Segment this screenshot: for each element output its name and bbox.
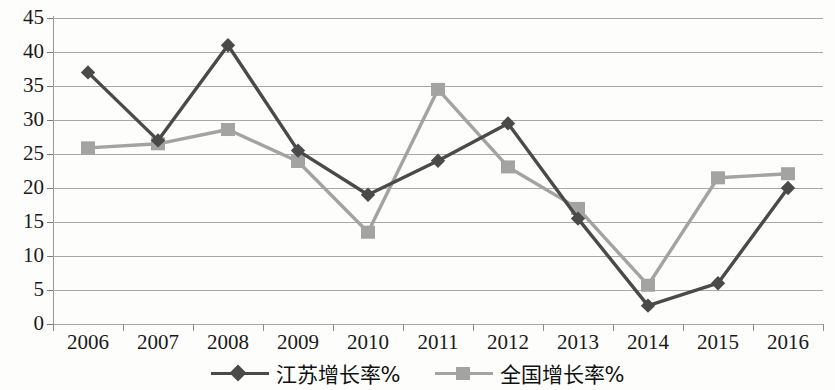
line-chart: 051015202530354045 200620072008200920102… <box>0 0 835 390</box>
gridline <box>53 18 823 19</box>
y-tick-mark <box>47 324 53 325</box>
x-tick-label: 2008 <box>193 332 263 353</box>
x-tick-label: 2016 <box>753 332 823 353</box>
x-tick-mark <box>613 324 614 331</box>
y-tick-label: 5 <box>4 279 44 300</box>
x-tick-label: 2011 <box>403 332 473 353</box>
gridline <box>53 324 823 325</box>
y-tick-label: 25 <box>4 143 44 164</box>
x-tick-mark <box>543 324 544 331</box>
y-tick-label: 20 <box>4 177 44 198</box>
chart-legend: 江苏增长率% 全国增长率% <box>0 358 835 388</box>
diamond-marker-icon <box>211 365 269 381</box>
x-tick-mark <box>753 324 754 331</box>
y-tick-label: 10 <box>4 245 44 266</box>
y-tick-label: 15 <box>4 211 44 232</box>
x-tick-mark <box>53 324 54 331</box>
y-tick-label: 30 <box>4 109 44 130</box>
gridline <box>53 188 823 189</box>
y-tick-mark <box>47 120 53 121</box>
legend-item-national[interactable]: 全国增长率% <box>435 358 625 388</box>
x-tick-label: 2014 <box>613 332 683 353</box>
gridline <box>53 222 823 223</box>
gridline <box>53 290 823 291</box>
gridline <box>53 86 823 87</box>
x-tick-mark <box>473 324 474 331</box>
x-tick-mark <box>403 324 404 331</box>
x-tick-label: 2015 <box>683 332 753 353</box>
x-tick-mark <box>263 324 264 331</box>
legend-label-national: 全国增长率% <box>500 358 625 388</box>
plot-area <box>53 18 823 324</box>
y-tick-mark <box>47 86 53 87</box>
y-tick-mark <box>47 256 53 257</box>
y-tick-mark <box>47 18 53 19</box>
x-tick-mark <box>683 324 684 331</box>
x-tick-label: 2012 <box>473 332 543 353</box>
y-tick-mark <box>47 290 53 291</box>
y-tick-label: 35 <box>4 75 44 96</box>
legend-item-jiangsu[interactable]: 江苏增长率% <box>211 358 401 388</box>
x-tick-label: 2010 <box>333 332 403 353</box>
x-tick-label: 2013 <box>543 332 613 353</box>
x-tick-label: 2006 <box>53 332 123 353</box>
y-tick-label: 45 <box>4 7 44 28</box>
y-tick-label: 40 <box>4 41 44 62</box>
gridline <box>53 256 823 257</box>
gridline <box>53 120 823 121</box>
y-tick-label: 0 <box>4 313 44 334</box>
square-marker-icon <box>435 365 493 381</box>
gridline <box>53 52 823 53</box>
x-tick-mark <box>123 324 124 331</box>
x-tick-mark <box>823 324 824 331</box>
x-tick-mark <box>333 324 334 331</box>
legend-label-jiangsu: 江苏增长率% <box>276 358 401 388</box>
gridline <box>53 154 823 155</box>
y-axis-labels: 051015202530354045 <box>0 0 44 390</box>
y-tick-mark <box>47 52 53 53</box>
x-tick-mark <box>193 324 194 331</box>
y-tick-mark <box>47 154 53 155</box>
y-tick-mark <box>47 222 53 223</box>
x-tick-label: 2009 <box>263 332 333 353</box>
x-tick-label: 2007 <box>123 332 193 353</box>
y-tick-mark <box>47 188 53 189</box>
